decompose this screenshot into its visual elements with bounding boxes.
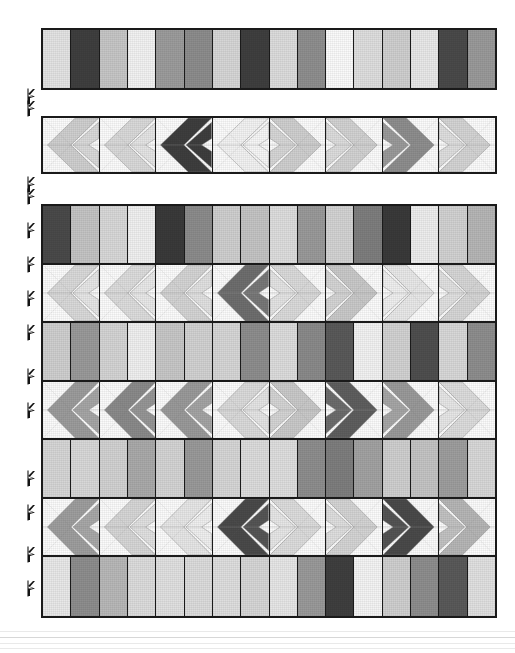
bar-cell[interactable] <box>468 206 495 263</box>
chevron-block-right[interactable] <box>270 382 327 438</box>
main-row-chevrons[interactable] <box>43 382 495 440</box>
bar-cell[interactable] <box>71 440 99 497</box>
bar-cell[interactable] <box>43 323 71 380</box>
chevron-block-left[interactable] <box>156 118 213 172</box>
bar-cell[interactable] <box>213 30 241 88</box>
bar-cell[interactable] <box>156 440 184 497</box>
bar-cell[interactable] <box>241 323 269 380</box>
bar-cell[interactable] <box>71 323 99 380</box>
bar-cell[interactable] <box>185 30 213 88</box>
bar-cell[interactable] <box>241 206 269 263</box>
bar-cell[interactable] <box>100 30 128 88</box>
bar-cell[interactable] <box>354 206 382 263</box>
bar-cell[interactable] <box>128 440 156 497</box>
chevron-block-left[interactable] <box>43 499 100 555</box>
chevron-block-left[interactable] <box>100 118 157 172</box>
bar-cell[interactable] <box>43 206 71 263</box>
bar-cell[interactable] <box>156 557 184 616</box>
chevron-block-left[interactable] <box>43 118 100 172</box>
bar-cell[interactable] <box>411 323 439 380</box>
bar-cell[interactable] <box>298 323 326 380</box>
bar-cell[interactable] <box>71 30 99 88</box>
bar-cell[interactable] <box>128 206 156 263</box>
bar-cell[interactable] <box>326 440 354 497</box>
bar-cell[interactable] <box>241 440 269 497</box>
bar-cell[interactable] <box>326 30 354 88</box>
main-row-chevrons[interactable] <box>43 265 495 323</box>
chevron-block-left[interactable] <box>43 382 100 438</box>
chevron-block-right[interactable] <box>326 499 383 555</box>
bar-cell[interactable] <box>354 440 382 497</box>
bar-cell[interactable] <box>270 323 298 380</box>
bar-cell[interactable] <box>439 557 467 616</box>
bar-cell[interactable] <box>213 557 241 616</box>
chevron-block-left[interactable] <box>156 499 213 555</box>
bar-cell[interactable] <box>156 323 184 380</box>
bar-cell[interactable] <box>439 30 467 88</box>
bar-cell[interactable] <box>43 30 71 88</box>
bar-cell[interactable] <box>411 30 439 88</box>
bar-cell[interactable] <box>439 440 467 497</box>
bar-cell[interactable] <box>298 440 326 497</box>
bar-cell[interactable] <box>213 206 241 263</box>
bar-cell[interactable] <box>270 557 298 616</box>
bar-cell[interactable] <box>411 440 439 497</box>
bar-cell[interactable] <box>213 440 241 497</box>
top-bar-strip[interactable] <box>41 28 497 90</box>
bar-cell[interactable] <box>270 206 298 263</box>
chevron-block-right[interactable] <box>439 118 495 172</box>
bar-cell[interactable] <box>383 557 411 616</box>
bar-cell[interactable] <box>100 206 128 263</box>
chevron-block-right[interactable] <box>383 382 440 438</box>
bar-cell[interactable] <box>411 557 439 616</box>
chevron-block-right[interactable] <box>383 265 440 321</box>
bar-cell[interactable] <box>71 206 99 263</box>
bar-cell[interactable] <box>468 30 495 88</box>
bar-cell[interactable] <box>43 440 71 497</box>
main-row-bars[interactable] <box>43 323 495 382</box>
bar-cell[interactable] <box>241 30 269 88</box>
chevron-block-right[interactable] <box>270 265 327 321</box>
main-pattern-block[interactable] <box>41 204 497 618</box>
chevron-block-left[interactable] <box>156 382 213 438</box>
chevron-block-left[interactable] <box>43 265 100 321</box>
bar-cell[interactable] <box>326 557 354 616</box>
bar-cell[interactable] <box>298 206 326 263</box>
bar-cell[interactable] <box>298 557 326 616</box>
bar-cell[interactable] <box>354 557 382 616</box>
main-row-bars[interactable] <box>43 440 495 499</box>
main-row-bars[interactable] <box>43 557 495 616</box>
bar-cell[interactable] <box>270 30 298 88</box>
chevron-block-right[interactable] <box>326 118 383 172</box>
second-chevron-strip[interactable] <box>41 116 497 174</box>
bar-cell[interactable] <box>128 557 156 616</box>
bar-cell[interactable] <box>100 440 128 497</box>
chevron-block-left[interactable] <box>100 382 157 438</box>
chevron-block-right[interactable] <box>270 499 327 555</box>
bar-cell[interactable] <box>468 557 495 616</box>
main-row-chevrons[interactable] <box>43 499 495 557</box>
bar-cell[interactable] <box>128 30 156 88</box>
chevron-block-left[interactable] <box>100 265 157 321</box>
chevron-block-right[interactable] <box>439 265 495 321</box>
bar-cell[interactable] <box>298 30 326 88</box>
bar-cell[interactable] <box>439 206 467 263</box>
bar-cell[interactable] <box>354 323 382 380</box>
chevron-block-right[interactable] <box>439 499 495 555</box>
bar-cell[interactable] <box>100 323 128 380</box>
bar-cell[interactable] <box>354 30 382 88</box>
bar-cell[interactable] <box>185 323 213 380</box>
bar-cell[interactable] <box>185 206 213 263</box>
chevron-block-left[interactable] <box>213 118 270 172</box>
bar-cell[interactable] <box>383 30 411 88</box>
bar-cell[interactable] <box>383 323 411 380</box>
bar-cell[interactable] <box>185 557 213 616</box>
chevron-block-right[interactable] <box>383 499 440 555</box>
bar-cell[interactable] <box>241 557 269 616</box>
bar-cell[interactable] <box>100 557 128 616</box>
bar-cell[interactable] <box>185 440 213 497</box>
bar-cell[interactable] <box>270 440 298 497</box>
chevron-block-left[interactable] <box>156 265 213 321</box>
bar-cell[interactable] <box>468 440 495 497</box>
main-row-bars[interactable] <box>43 206 495 265</box>
